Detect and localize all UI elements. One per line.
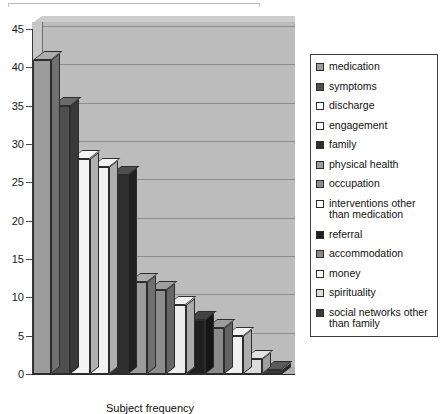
legend-swatch — [316, 180, 324, 188]
legend-label: social networks other than family — [329, 307, 433, 330]
legend-swatch — [316, 141, 324, 149]
legend-label: engagement — [329, 120, 387, 132]
legend-item: social networks other than family — [316, 307, 433, 330]
bar-side-face — [51, 53, 60, 374]
legend-swatch — [316, 83, 324, 91]
x-axis-baseline — [32, 374, 295, 375]
legend-swatch — [316, 250, 324, 258]
bar-side-face — [109, 160, 118, 374]
bar-side-face — [205, 313, 214, 374]
legend-label: interventions other than medication — [329, 198, 433, 221]
bar-side-face — [128, 168, 137, 374]
bar-side-face — [70, 99, 79, 374]
legend-item: referral — [316, 229, 433, 241]
legend-swatch — [316, 289, 324, 297]
legend-swatch — [316, 122, 324, 130]
y-axis-tick-label: 5 — [0, 331, 24, 341]
y-axis-tick-label: 10 — [0, 292, 24, 302]
gridline — [42, 103, 295, 104]
legend-swatch — [316, 200, 324, 208]
legend-item: spirituality — [316, 287, 433, 299]
bar-side-face — [147, 275, 156, 374]
x-axis-label: Subject frequency — [0, 402, 300, 414]
legend-item: interventions other than medication — [316, 198, 433, 221]
legend-swatch — [316, 270, 324, 278]
legend-label: physical health — [329, 159, 398, 171]
y-axis-tick-label: 35 — [0, 101, 24, 111]
legend-label: money — [329, 268, 361, 280]
legend-item: engagement — [316, 120, 433, 132]
gridline — [42, 26, 295, 27]
legend-label: occupation — [329, 178, 380, 190]
bar-side-face — [224, 321, 233, 374]
bar-side-face — [166, 283, 175, 374]
legend-item: discharge — [316, 100, 433, 112]
y-axis-tick-label: 40 — [0, 62, 24, 72]
legend-label: spirituality — [329, 287, 376, 299]
legend-swatch — [316, 231, 324, 239]
bar-side-face — [90, 152, 99, 374]
legend-item: family — [316, 139, 433, 151]
legend-swatch — [316, 309, 324, 317]
y-axis-tick-label: 20 — [0, 216, 24, 226]
y-axis-tick-label: 30 — [0, 139, 24, 149]
legend-swatch — [316, 63, 324, 71]
chart-legend: medicationsymptomsdischargeengagementfam… — [310, 54, 438, 337]
bar — [33, 60, 51, 374]
bar-front-face — [33, 60, 51, 374]
legend-label: medication — [329, 61, 380, 73]
legend-item: occupation — [316, 178, 433, 190]
legend-swatch — [316, 161, 324, 169]
legend-label: discharge — [329, 100, 375, 112]
legend-label: accommodation — [329, 248, 403, 260]
y-axis-tick-label: 25 — [0, 177, 24, 187]
legend-label: symptoms — [329, 81, 377, 93]
legend-label: referral — [329, 229, 362, 241]
legend-item: physical health — [316, 159, 433, 171]
legend-label: family — [329, 139, 356, 151]
legend-item: money — [316, 268, 433, 280]
y-axis-tick-label: 0 — [0, 369, 24, 379]
legend-item: symptoms — [316, 81, 433, 93]
bar-side-face — [243, 329, 252, 374]
gridline — [42, 141, 295, 142]
y-axis-tick-label: 45 — [0, 24, 24, 34]
legend-item: accommodation — [316, 248, 433, 260]
gridline — [42, 64, 295, 65]
bar-side-face — [186, 298, 195, 374]
legend-swatch — [316, 102, 324, 110]
scan-artifact-line — [8, 3, 260, 7]
y-axis-tick-label: 15 — [0, 254, 24, 264]
plot-area: 454035302520151050 Subject frequency — [0, 16, 310, 394]
legend-item: medication — [316, 61, 433, 73]
